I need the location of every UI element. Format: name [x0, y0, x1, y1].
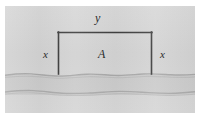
label-y: y [95, 12, 100, 24]
figure-root: y x x A [0, 0, 201, 121]
label-x-left: x [43, 49, 48, 60]
label-enclosed-area: A [98, 48, 105, 60]
label-x-right: x [160, 49, 165, 60]
